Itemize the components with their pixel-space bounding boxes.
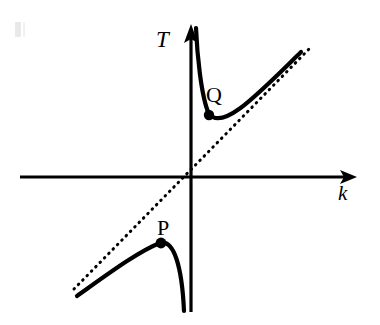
curve-p-path xyxy=(77,243,184,311)
point-q-label: Q xyxy=(206,84,222,106)
t-axis-label: T xyxy=(156,28,169,51)
figure-canvas: T k P Q xyxy=(0,0,380,325)
diagram-svg xyxy=(0,0,380,325)
k-axis-label: k xyxy=(338,183,347,204)
point-q-marker xyxy=(204,110,214,120)
point-p-label: P xyxy=(157,217,169,239)
